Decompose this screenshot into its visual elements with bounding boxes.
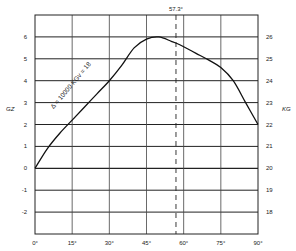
y-right-tick-label: 18 [266,209,273,215]
y-right-tick-label: 22 [266,122,273,128]
y-tick-label: -2 [22,209,28,215]
reference-line-label: 57.3° [169,6,184,12]
y-right-tick-label: 24 [266,78,273,84]
y-right-tick-label: 21 [266,143,273,149]
y-tick-label: 4 [24,78,28,84]
gz-stability-chart: 57.3° Δ = 10000 KGv = 18 0°15°30°45°60°7… [0,0,296,251]
y-tick-label: 2 [24,122,28,128]
x-tick-label: 0° [32,240,38,246]
right-y-axis-label: KG [282,106,291,112]
y-right-tick-label: 23 [266,100,273,106]
y-right-tick-label: 19 [266,187,273,193]
x-tick-label: 45° [142,240,152,246]
left-y-axis-label: GZ [6,106,15,112]
right-y-axis-ticks: 262524232221201918 [266,34,273,215]
x-tick-label: 90° [253,240,263,246]
x-tick-label: 60° [179,240,189,246]
y-tick-label: 0 [24,165,28,171]
y-tick-label: 5 [24,56,28,62]
x-tick-label: 15° [68,240,78,246]
x-tick-label: 30° [105,240,115,246]
x-tick-label: 75° [216,240,226,246]
y-right-tick-label: 25 [266,56,273,62]
y-right-tick-label: 26 [266,34,273,40]
y-tick-label: 1 [24,143,28,149]
left-y-axis-ticks: 6543210-1-2 [22,34,28,215]
x-axis-ticks: 0°15°30°45°60°75°90° [32,240,263,246]
y-right-tick-label: 20 [266,165,273,171]
y-tick-label: -1 [22,187,28,193]
y-tick-label: 6 [24,34,28,40]
y-tick-label: 3 [24,100,28,106]
